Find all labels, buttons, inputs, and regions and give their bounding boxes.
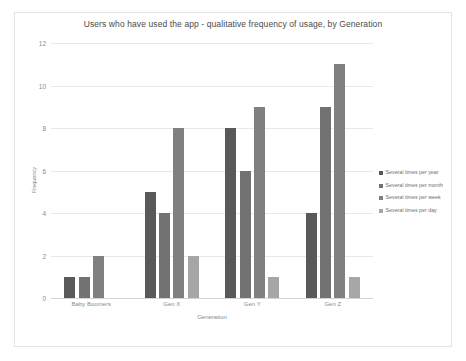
- bar[interactable]: [173, 128, 184, 298]
- legend-swatch-icon: [379, 184, 383, 188]
- bar[interactable]: [93, 256, 104, 299]
- legend-item-label: Several times per year: [386, 170, 439, 175]
- x-axis-tick-labels: Baby BoomersGen XGen YGen Z: [51, 301, 373, 307]
- y-axis-tick-label: 6: [42, 167, 46, 174]
- bar-group: [293, 43, 374, 298]
- bar-slot: [145, 43, 156, 298]
- bar-group: [51, 43, 132, 298]
- bar-slot: [107, 43, 118, 298]
- bar-slot: [79, 43, 90, 298]
- y-axis-tick-label: 8: [42, 125, 46, 132]
- legend-swatch-icon: [379, 171, 383, 175]
- x-axis-tick-label: Gen Y: [212, 301, 293, 307]
- bar[interactable]: [225, 128, 236, 298]
- legend-item[interactable]: Several times per month: [379, 182, 466, 190]
- y-axis-tick-label: 2: [42, 252, 46, 259]
- bar[interactable]: [145, 192, 156, 298]
- x-axis-tick-label: Baby Boomers: [51, 301, 132, 307]
- y-axis-tick-label: 10: [39, 82, 46, 89]
- legend-item[interactable]: Several times per week: [379, 194, 466, 202]
- bar[interactable]: [320, 107, 331, 298]
- legend-item[interactable]: Several times per day: [379, 207, 466, 215]
- legend-swatch-icon: [379, 196, 383, 200]
- bar-slot: [188, 43, 199, 298]
- x-axis-tick-label: Gen X: [132, 301, 213, 307]
- gridline: 0: [51, 298, 373, 299]
- bar[interactable]: [306, 213, 317, 298]
- legend-item-label: Several times per month: [386, 183, 443, 188]
- bar-slot: [306, 43, 317, 298]
- plot-area: 024681012: [51, 43, 373, 298]
- bar[interactable]: [159, 213, 170, 298]
- bar[interactable]: [188, 256, 199, 299]
- x-axis-tick-label: Gen Z: [293, 301, 374, 307]
- bars-layer: [51, 43, 373, 298]
- bar[interactable]: [349, 277, 360, 298]
- x-axis-title: Generation: [51, 314, 373, 320]
- bar-slot: [334, 43, 345, 298]
- legend-item-label: Several times per week: [386, 195, 441, 200]
- bar-slot: [349, 43, 360, 298]
- bar-slot: [240, 43, 251, 298]
- y-axis-title: Frequency: [31, 167, 37, 193]
- bar[interactable]: [334, 64, 345, 298]
- bar-slot: [173, 43, 184, 298]
- bar-group: [132, 43, 213, 298]
- chart-legend: Several times per yearSeveral times per …: [379, 169, 466, 219]
- legend-swatch-icon: [379, 209, 383, 213]
- chart-title: Users who have used the app - qualitativ…: [15, 19, 451, 29]
- bar-slot: [320, 43, 331, 298]
- legend-item-label: Several times per day: [386, 208, 437, 213]
- bar-slot: [254, 43, 265, 298]
- bar-slot: [268, 43, 279, 298]
- y-axis-tick-label: 4: [42, 210, 46, 217]
- y-axis-tick-label: 0: [42, 295, 46, 302]
- bar[interactable]: [268, 277, 279, 298]
- y-axis-tick-label: 12: [39, 40, 46, 47]
- bar[interactable]: [254, 107, 265, 298]
- bar-slot: [93, 43, 104, 298]
- bar[interactable]: [64, 277, 75, 298]
- bar-slot: [64, 43, 75, 298]
- bar-group: [212, 43, 293, 298]
- bar[interactable]: [79, 277, 90, 298]
- bar-slot: [159, 43, 170, 298]
- bar[interactable]: [240, 171, 251, 299]
- legend-item[interactable]: Several times per year: [379, 169, 466, 177]
- bar-slot: [225, 43, 236, 298]
- chart-container: Users who have used the app - qualitativ…: [14, 12, 452, 347]
